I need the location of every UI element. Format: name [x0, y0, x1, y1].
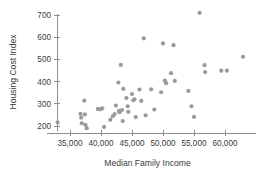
data-point — [164, 81, 168, 85]
data-point — [192, 115, 196, 119]
data-point — [142, 36, 146, 40]
data-point — [149, 87, 153, 91]
data-point — [197, 11, 201, 15]
data-point — [120, 108, 124, 112]
data-point — [79, 115, 83, 119]
data-point — [161, 41, 165, 45]
y-tick-label: 700 — [37, 11, 51, 20]
data-point — [139, 99, 143, 103]
data-point — [171, 43, 175, 47]
data-point — [80, 121, 84, 125]
y-tick-label: 200 — [37, 122, 51, 131]
y-tick-label: 300 — [37, 100, 51, 109]
data-point — [241, 55, 245, 59]
data-point — [56, 120, 60, 124]
data-point — [114, 103, 118, 107]
data-point — [100, 106, 104, 110]
y-tick-label: 500 — [37, 55, 51, 64]
data-point — [169, 71, 173, 75]
data-point — [116, 80, 120, 84]
data-point — [186, 89, 190, 93]
data-point — [85, 126, 89, 130]
scatter-chart: 20030040050060070035,00040,00045,00050,0… — [0, 0, 262, 172]
data-point — [119, 63, 123, 67]
data-point — [189, 104, 193, 108]
data-point — [102, 125, 106, 129]
data-point — [82, 99, 86, 103]
x-tick-label: 60,000 — [212, 139, 237, 148]
data-point — [144, 113, 148, 117]
data-point — [134, 115, 138, 119]
data-point — [225, 69, 229, 73]
data-point — [132, 97, 136, 101]
x-tick-label: 45,000 — [119, 139, 144, 148]
data-point — [173, 79, 177, 83]
data-point — [78, 112, 82, 116]
data-point — [219, 69, 223, 73]
x-tick-label: 40,000 — [88, 139, 113, 148]
data-point — [130, 92, 134, 96]
y-tick-label: 600 — [37, 33, 51, 42]
y-tick-label: 400 — [37, 78, 51, 87]
data-point — [121, 119, 125, 123]
data-point — [152, 107, 156, 111]
x-tick-label: 35,000 — [57, 139, 82, 148]
data-point — [126, 104, 130, 108]
y-axis-title: Housing Cost Index — [8, 34, 18, 110]
data-point — [202, 63, 206, 67]
data-point — [124, 96, 128, 100]
data-point — [83, 112, 87, 116]
data-point — [126, 110, 130, 114]
data-point — [203, 70, 207, 74]
x-tick-label: 55,000 — [181, 139, 206, 148]
data-point — [108, 118, 112, 122]
x-axis-title: Median Family Income — [104, 158, 191, 168]
data-point — [137, 87, 141, 91]
data-point — [121, 87, 125, 91]
data-point — [159, 90, 163, 94]
x-tick-label: 50,000 — [150, 139, 175, 148]
data-point — [113, 112, 117, 116]
chart-canvas: 20030040050060070035,00040,00045,00050,0… — [0, 0, 262, 172]
